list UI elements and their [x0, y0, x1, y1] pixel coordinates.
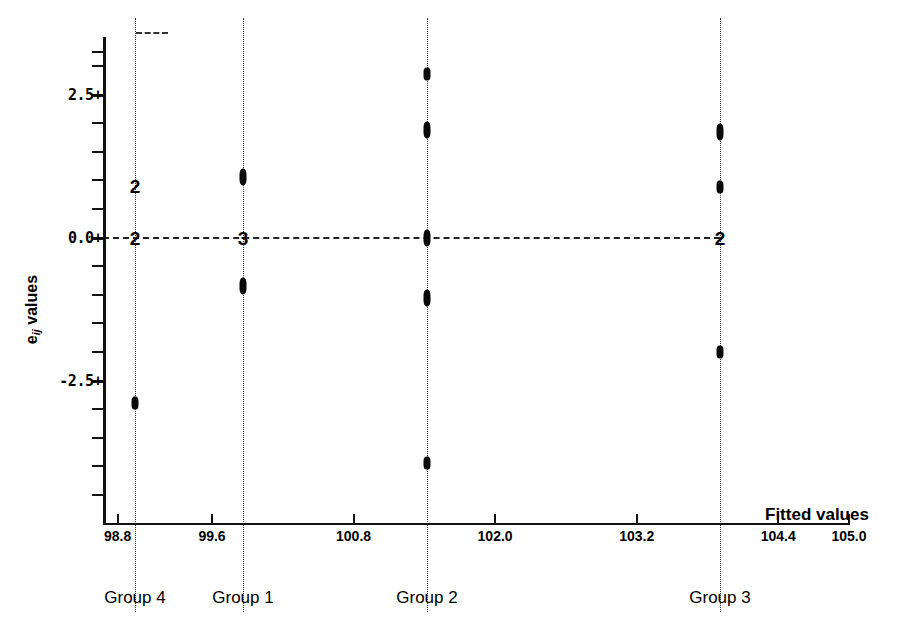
x-tick	[636, 514, 638, 523]
group-label: Group 2	[396, 588, 457, 608]
y-tick-minor	[92, 208, 103, 210]
y-tick-minor	[92, 51, 103, 53]
residual-scatter-plot: 2.5+0.0+-2.5+ 98.899.6100.8102.0103.2104…	[0, 0, 912, 641]
zero-reference-line	[103, 237, 720, 239]
x-tick	[353, 514, 355, 523]
y-axis-line	[103, 37, 106, 525]
y-tick-label: -2.5+	[18, 372, 102, 390]
x-axis-title: Fitted values	[765, 505, 869, 525]
y-tick-minor	[92, 151, 103, 153]
x-tick	[211, 514, 213, 523]
group-label: Group 3	[689, 588, 750, 608]
y-tick-minor	[92, 65, 103, 67]
y-tick-minor	[92, 494, 103, 496]
x-tick	[494, 514, 496, 523]
data-point-marker	[424, 457, 431, 470]
x-tick-label: 105.0	[831, 528, 866, 544]
y-tick-minor	[92, 294, 103, 296]
y-tick-minor	[92, 351, 103, 353]
data-point-count-label: 2	[130, 177, 141, 196]
y-tick-minor	[92, 437, 103, 439]
top-dash-segment	[136, 32, 168, 34]
x-tick-label: 103.2	[619, 528, 654, 544]
y-tick-minor	[92, 122, 103, 124]
data-point-count-label: 2	[715, 228, 726, 247]
data-point-marker	[132, 397, 139, 410]
data-point-marker	[424, 121, 431, 138]
data-point-marker	[240, 169, 247, 186]
data-point-marker	[424, 289, 431, 306]
y-tick-minor	[92, 265, 103, 267]
x-tick-label: 104.4	[761, 528, 796, 544]
data-point-count-label: 2	[130, 228, 141, 247]
y-axis-title-tail: values	[23, 275, 40, 329]
x-tick-label: 99.6	[198, 528, 225, 544]
data-point-marker	[424, 229, 431, 246]
data-point-marker	[424, 68, 431, 81]
x-tick	[117, 514, 119, 523]
x-tick-label: 102.0	[478, 528, 513, 544]
data-point-marker	[240, 278, 247, 295]
y-axis-title: eij values	[23, 250, 42, 370]
y-axis-title-subscript: ij	[30, 329, 42, 335]
data-point-marker	[717, 123, 724, 140]
group-label: Group 1	[212, 588, 273, 608]
y-tick-label: 0.0+	[18, 229, 102, 247]
y-tick-minor	[92, 465, 103, 467]
group-label: Group 4	[104, 588, 165, 608]
data-point-marker	[717, 181, 724, 194]
x-tick-label: 98.8	[104, 528, 131, 544]
y-tick-minor	[92, 179, 103, 181]
data-point-marker	[717, 345, 724, 358]
data-point-count-label: 3	[238, 228, 249, 247]
x-tick-label: 100.8	[336, 528, 371, 544]
y-tick-minor	[92, 322, 103, 324]
x-axis-line	[103, 523, 850, 525]
y-tick-label: 2.5+	[18, 86, 102, 104]
y-axis-title-main: e	[23, 335, 40, 344]
y-tick-minor	[92, 408, 103, 410]
